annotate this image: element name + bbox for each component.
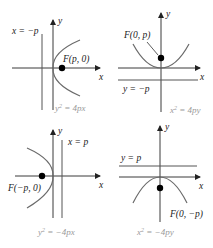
panel-opens-up: F(0, p) y = −p x y x2 = 4py bbox=[118, 9, 205, 115]
x-axis-label: x bbox=[98, 180, 104, 190]
focus-label: F(p, 0) bbox=[62, 54, 89, 65]
panel-opens-down: y = p F(0, −p) x y x2 = −4py bbox=[119, 122, 204, 237]
focus-label: F(0, p) bbox=[123, 30, 150, 41]
directrix-label: y = p bbox=[120, 153, 141, 163]
focus-point bbox=[39, 173, 45, 179]
y-axis-label: y bbox=[165, 9, 171, 19]
panel-opens-right: x = −p F(p, 0) x y y2 = 4px bbox=[11, 16, 104, 113]
focus-point bbox=[158, 55, 164, 61]
equation-label: x2 = −4py bbox=[136, 227, 174, 237]
directrix-label: y = −p bbox=[122, 84, 150, 94]
x-axis-label: x bbox=[98, 72, 104, 82]
equation-label: y2 = −4px bbox=[37, 227, 75, 237]
equation-label: y2 = 4px bbox=[54, 103, 86, 113]
equation-label: x2 = 4py bbox=[169, 105, 201, 115]
x-axis-label: x bbox=[198, 181, 204, 191]
parabola-diagram: x = −p F(p, 0) x y y2 = 4px F(0, p) y = … bbox=[0, 0, 213, 248]
focus-leader-line bbox=[147, 42, 158, 55]
y-axis-label: y bbox=[57, 16, 63, 26]
focus-point bbox=[157, 185, 163, 191]
focus-point bbox=[59, 65, 65, 71]
x-axis-label: x bbox=[199, 72, 205, 82]
y-axis-label: y bbox=[164, 122, 170, 132]
directrix-label: x = p bbox=[67, 137, 88, 147]
panel-opens-left: x = p F(−p, 0) x y y2 = −4px bbox=[7, 126, 104, 237]
directrix-label: x = −p bbox=[11, 26, 39, 36]
y-axis-label: y bbox=[57, 126, 63, 136]
focus-label: F(0, −p) bbox=[169, 209, 203, 220]
focus-label: F(−p, 0) bbox=[7, 183, 41, 194]
